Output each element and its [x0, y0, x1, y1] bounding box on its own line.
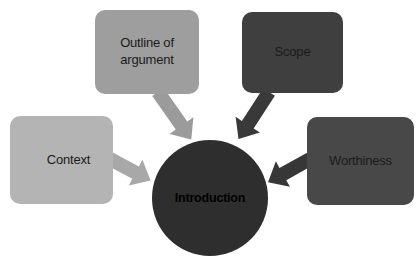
center-circle-label: Introduction	[175, 191, 246, 205]
node-context: Context	[10, 116, 113, 204]
node-worthiness: Worthiness	[307, 117, 414, 205]
node-worthiness-label: Worthiness	[329, 153, 392, 170]
diagram-canvas: Outline of argument Scope Context Worthi…	[0, 0, 420, 261]
node-scope-label: Scope	[275, 44, 311, 61]
arrow-scope-to-center-icon	[226, 84, 281, 147]
node-outline-of-argument: Outline of argument	[95, 10, 199, 94]
center-circle-introduction: Introduction	[152, 140, 268, 256]
node-scope: Scope	[242, 12, 343, 93]
node-outline-of-argument-label: Outline of argument	[120, 35, 174, 69]
node-context-label: Context	[33, 152, 90, 169]
